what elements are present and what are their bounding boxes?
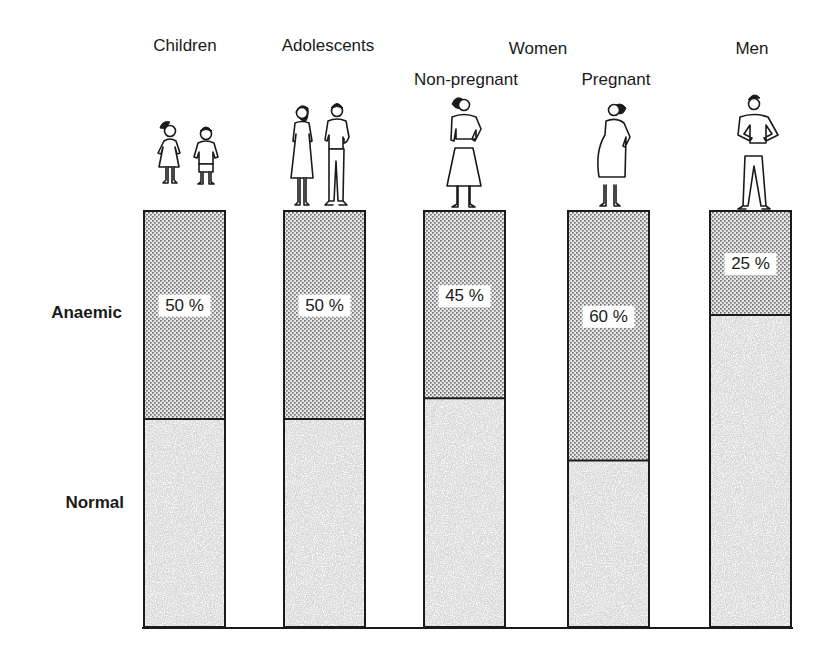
bar-normal-men — [710, 315, 791, 627]
group-label-women: Women — [509, 39, 567, 58]
bar-normal-non-pregnant — [424, 398, 505, 627]
man-icon — [738, 95, 778, 209]
data-label-children: 50 % — [165, 296, 204, 315]
girl-and-boy-icon — [158, 122, 218, 184]
row-label-normal: Normal — [65, 493, 124, 512]
row-label-anaemic: Anaemic — [51, 303, 122, 322]
teen-girl-and-boy-icon — [291, 104, 349, 206]
category-label-men: Men — [735, 39, 768, 58]
data-label-adolescents: 50 % — [305, 296, 344, 315]
data-label-pregnant: 60 % — [589, 307, 628, 326]
category-label-pregnant: Pregnant — [582, 70, 651, 89]
bar-anaemic-pregnant — [568, 211, 649, 461]
bar-normal-children — [144, 419, 225, 627]
pregnant-woman-icon — [598, 104, 630, 206]
category-label-adolescents: Adolescents — [282, 36, 375, 55]
data-label-men: 25 % — [731, 254, 770, 273]
category-label-non-pregnant: Non-pregnant — [414, 70, 518, 89]
category-label-children: Children — [153, 36, 216, 55]
bar-normal-adolescents — [284, 419, 365, 627]
bar-normal-pregnant — [568, 461, 649, 627]
data-label-non-pregnant: 45 % — [445, 286, 484, 305]
woman-icon — [447, 98, 481, 207]
bars-group: 50 %50 %45 %60 %25 % — [144, 211, 791, 627]
anaemia-prevalence-chart: Anaemic Normal Women Children Adolescent… — [0, 0, 827, 656]
